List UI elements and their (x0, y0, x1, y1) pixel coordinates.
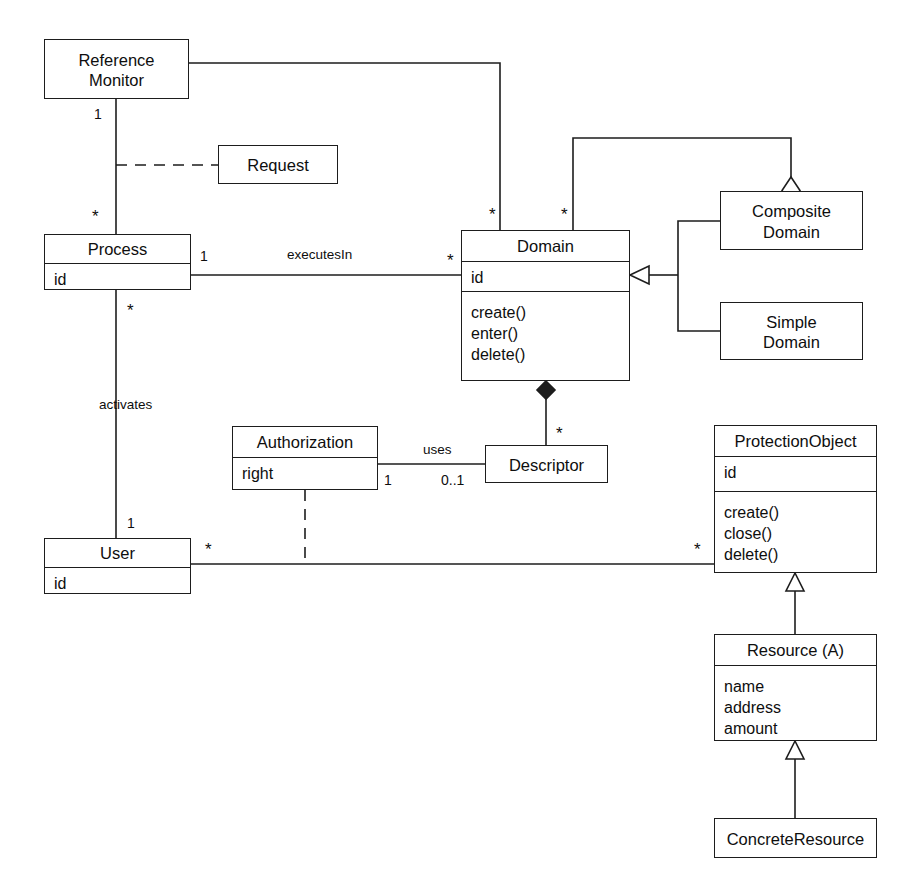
operation-row: delete() (724, 544, 876, 565)
attribute-row: id (724, 462, 876, 483)
multiplicity-domain-composite: * (561, 211, 568, 219)
uml-diagram-canvas: .ln { stroke: #1d1d1d; stroke-width: 1.6… (0, 0, 914, 871)
operation-row: close() (724, 523, 876, 544)
class-name-resource: Resource (A) (715, 635, 876, 665)
multiplicity-process-reference-monitor: * (92, 213, 99, 221)
class-box-protection-object[interactable]: ProtectionObject id create() close() del… (714, 425, 877, 573)
multiplicity-protection-object-user: * (694, 546, 701, 554)
class-attributes-domain: id (462, 261, 629, 291)
multiplicity-descriptor-domain: * (556, 430, 563, 438)
class-name-concrete-resource: ConcreteResource (715, 819, 876, 859)
class-box-domain[interactable]: Domain id create() enter() delete() (461, 230, 630, 381)
class-name-process: Process (45, 235, 190, 263)
class-name-reference-monitor: Reference Monitor (45, 40, 188, 100)
multiplicity-domain-executes-in: * (447, 257, 454, 265)
class-box-simple-domain[interactable]: Simple Domain (720, 302, 863, 360)
class-box-resource[interactable]: Resource (A) name address amount (714, 634, 877, 741)
generalization-triangle-protection-object (786, 573, 804, 591)
class-box-reference-monitor[interactable]: Reference Monitor (44, 39, 189, 99)
class-name-user: User (45, 539, 190, 567)
line-simple-domain-generalization (678, 275, 720, 331)
class-name-simple-domain: Simple Domain (721, 303, 862, 361)
generalization-triangle-domain (630, 266, 649, 284)
edge-label-executes-in: executesIn (287, 247, 352, 262)
composition-diamond-domain (537, 381, 555, 399)
class-name-domain: Domain (462, 231, 629, 261)
edge-label-uses: uses (423, 442, 452, 457)
class-attributes-resource: name address amount (715, 665, 876, 742)
generalization-triangle-resource (786, 741, 804, 759)
class-name-protection-object: ProtectionObject (715, 426, 876, 456)
class-box-concrete-resource[interactable]: ConcreteResource (714, 818, 877, 858)
multiplicity-user-activates: 1 (127, 515, 135, 531)
operation-row: create() (471, 302, 629, 323)
multiplicity-process-executes-in: 1 (200, 248, 208, 264)
class-operations-protection-object: create() close() delete() (715, 491, 876, 574)
multiplicity-user-protection-object: * (205, 546, 212, 554)
class-box-user[interactable]: User id (44, 538, 191, 594)
class-name-descriptor: Descriptor (486, 446, 607, 484)
class-name-request: Request (219, 146, 337, 185)
class-attributes-protection-object: id (715, 456, 876, 491)
attribute-row: id (54, 573, 190, 594)
operation-row: enter() (471, 323, 629, 344)
class-box-descriptor[interactable]: Descriptor (485, 445, 608, 483)
multiplicity-process-activates: * (127, 307, 134, 315)
multiplicity-authorization-uses: 1 (384, 472, 392, 488)
attribute-row: id (471, 267, 629, 288)
class-attributes-authorization: right (233, 457, 377, 491)
multiplicity-reference-monitor-process: 1 (94, 106, 102, 122)
class-box-request[interactable]: Request (218, 145, 338, 184)
class-box-process[interactable]: Process id (44, 234, 191, 290)
multiplicity-descriptor-uses: 0..1 (441, 472, 464, 488)
operation-row: create() (724, 502, 876, 523)
attribute-row: name (724, 676, 876, 697)
edge-label-activates: activates (99, 397, 152, 412)
attribute-row: right (242, 463, 377, 484)
attribute-row: id (54, 269, 190, 290)
class-box-authorization[interactable]: Authorization right (232, 426, 378, 490)
class-attributes-user: id (45, 567, 190, 595)
class-operations-domain: create() enter() delete() (462, 291, 629, 382)
class-attributes-process: id (45, 263, 190, 291)
attribute-row: address (724, 697, 876, 718)
class-box-composite-domain[interactable]: Composite Domain (720, 191, 863, 250)
attribute-row: amount (724, 718, 876, 739)
line-composite-domain-generalization (678, 221, 720, 275)
class-name-authorization: Authorization (233, 427, 377, 457)
operation-row: delete() (471, 344, 629, 365)
multiplicity-domain-reference-monitor: * (489, 211, 496, 219)
class-name-composite-domain: Composite Domain (721, 192, 862, 251)
